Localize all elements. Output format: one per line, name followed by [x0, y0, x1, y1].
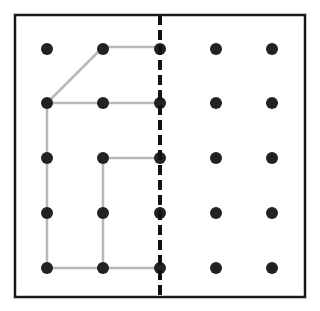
peg-dot [97, 97, 109, 109]
peg-dot [97, 152, 109, 164]
peg-dot [266, 262, 278, 274]
peg-dot [266, 43, 278, 55]
peg-dot [41, 152, 53, 164]
peg-dot [266, 97, 278, 109]
peg-dot [210, 97, 222, 109]
peg-dot [41, 97, 53, 109]
peg-dot [266, 152, 278, 164]
peg-dot [210, 207, 222, 219]
peg-dot [97, 262, 109, 274]
peg-dot [97, 207, 109, 219]
peg-dot [210, 262, 222, 274]
shape-edge [47, 47, 103, 103]
peg-dot [210, 43, 222, 55]
peg-dot [97, 43, 109, 55]
geoboard-diagram [0, 0, 320, 311]
peg-dot [41, 262, 53, 274]
peg-dot [41, 43, 53, 55]
peg-dot [210, 152, 222, 164]
peg-dot [266, 207, 278, 219]
geoboard-canvas [0, 0, 320, 311]
peg-dot [41, 207, 53, 219]
